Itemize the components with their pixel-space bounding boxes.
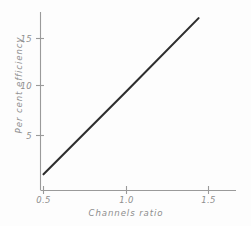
- y-axis-title: Per cent efficiency: [14, 37, 24, 134]
- x-tick-label-1-5: 1.5: [201, 195, 216, 205]
- chart-figure: 15 10 5 0.5 1.0 1.5 Channels ratio Per c…: [0, 0, 251, 226]
- chart-background: [0, 0, 251, 226]
- y-tick-label-5: 5: [26, 131, 32, 141]
- x-tick-label-0-5: 0.5: [36, 195, 51, 205]
- x-axis-title: Channels ratio: [89, 208, 164, 218]
- x-tick-label-1-0: 1.0: [119, 195, 134, 205]
- line-chart-canvas: 15 10 5 0.5 1.0 1.5 Channels ratio Per c…: [0, 0, 251, 226]
